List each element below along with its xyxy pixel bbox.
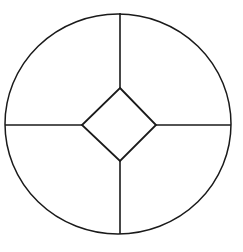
center-diamond <box>82 88 156 161</box>
circle-diamond-diagram <box>0 0 243 252</box>
diagram-canvas <box>0 0 243 252</box>
outer-circle <box>5 14 231 234</box>
